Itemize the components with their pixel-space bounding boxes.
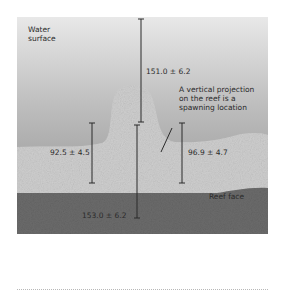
annotation-line-1: A vertical projection (179, 85, 254, 94)
annotation-line-2: on the reef is a (179, 94, 254, 103)
reef-cross-section-graphic (17, 17, 268, 273)
right-projection-measurement: 96.9 ± 4.7 (188, 148, 228, 157)
peak-to-base-measurement: 153.0 ± 6.2 (82, 211, 126, 220)
annotation-line-3: spawning location (179, 103, 254, 112)
water-surface-line-2: surface (28, 34, 56, 43)
reef-diagram: Water surface 151.0 ± 6.2 A vertical pro… (17, 17, 268, 273)
reef-face-label: Reef face (209, 192, 244, 201)
dotted-divider (17, 289, 268, 290)
left-projection-measurement: 92.5 ± 4.5 (50, 148, 90, 157)
water-surface-label: Water surface (28, 25, 56, 43)
white-margin (17, 234, 268, 273)
surface-to-peak-measurement: 151.0 ± 6.2 (146, 67, 190, 76)
spawning-annotation: A vertical projection on the reef is a s… (179, 85, 254, 112)
water-surface-line-1: Water (28, 25, 56, 34)
